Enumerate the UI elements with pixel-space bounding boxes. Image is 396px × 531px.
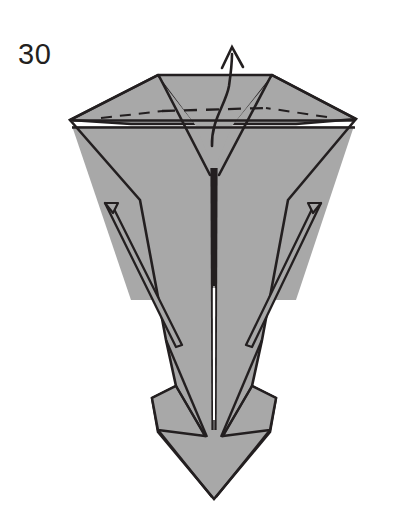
center-spine-white-gap [213, 288, 215, 420]
origami-figure [0, 0, 396, 531]
diagram-page: 30 [0, 0, 396, 531]
center-spine-line-right [216, 168, 217, 430]
center-spine-line-left [212, 168, 213, 430]
center-spine [211, 168, 217, 430]
